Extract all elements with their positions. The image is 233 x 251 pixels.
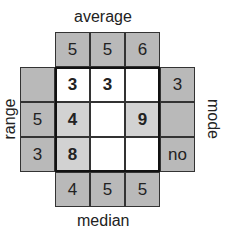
bottom-clue: 5 [90,172,125,207]
left-clue: 5 [20,102,55,137]
grid-cell[interactable] [125,137,160,172]
grid-cell-given: 9 [125,102,160,137]
grid-cell-given: 8 [55,137,90,172]
right-clue [160,102,195,137]
grid-cell-given: 4 [55,102,90,137]
grid-cell[interactable] [90,102,125,137]
left-clue [20,67,55,102]
left-clue: 3 [20,137,55,172]
grid-cell[interactable]: 3 [55,67,90,102]
label-range: range [1,99,19,140]
label-median: median [77,212,129,230]
bottom-clue: 4 [55,172,90,207]
label-average: average [74,8,132,26]
right-clue: no [160,137,195,172]
grid-cell[interactable] [90,137,125,172]
right-clue: 3 [160,67,195,102]
bottom-clue: 5 [125,172,160,207]
top-clue: 5 [90,32,125,67]
label-mode: mode [204,99,222,139]
top-clue: 6 [125,32,160,67]
grid-cell[interactable] [125,67,160,102]
top-clue: 5 [55,32,90,67]
grid-cell[interactable]: 3 [90,67,125,102]
